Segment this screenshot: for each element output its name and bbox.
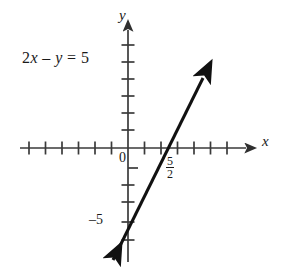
graph-figure: 2x – y = 5 y x 0 –5 5 2 bbox=[0, 0, 281, 272]
equation-minus: – bbox=[42, 49, 50, 66]
x-intercept-fraction-label: 5 2 bbox=[166, 155, 174, 180]
axis-label-x: x bbox=[262, 134, 269, 149]
equation-label: 2x – y = 5 bbox=[22, 50, 89, 66]
y-intercept-label: –5 bbox=[89, 213, 103, 227]
equation-var-x: x bbox=[30, 49, 38, 66]
origin-label: 0 bbox=[119, 151, 126, 165]
fraction: 5 2 bbox=[166, 155, 174, 180]
fraction-denominator: 2 bbox=[166, 168, 174, 180]
fraction-numerator: 5 bbox=[166, 155, 174, 168]
equation-rhs: 5 bbox=[81, 49, 89, 66]
y-axis-ticks bbox=[122, 45, 139, 240]
plotted-line bbox=[113, 78, 203, 260]
coordinate-plane-svg bbox=[0, 0, 281, 272]
axis-label-y: y bbox=[119, 8, 126, 23]
equation-var-y: y bbox=[55, 49, 63, 66]
equation-equals: = bbox=[67, 49, 76, 66]
